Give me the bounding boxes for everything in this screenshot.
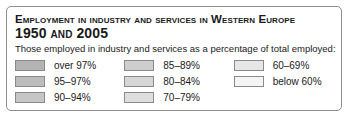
legend-swatch-label: 70–79%	[163, 92, 200, 103]
legend-swatch-label: 80–84%	[163, 76, 200, 87]
legend-item: 90–94%	[15, 90, 124, 106]
legend-item: over 97%	[15, 58, 124, 74]
legend-item: 70–79%	[124, 90, 233, 106]
title-block: Employment in industry and services in W…	[15, 13, 333, 41]
legend-item: below 60%	[234, 74, 333, 90]
legend-swatch	[234, 76, 264, 87]
legend-column-3: 60–69% below 60%	[234, 58, 333, 106]
legend-swatch	[15, 92, 45, 103]
legend-swatch-label: 95–97%	[54, 76, 91, 87]
legend-item: 85–89%	[124, 58, 233, 74]
legend-item: 95–97%	[15, 74, 124, 90]
legend-columns: over 97% 95–97% 90–94% 85–89%	[15, 58, 333, 106]
page-title-line-1: Employment in industry and services in W…	[15, 13, 333, 26]
legend-swatch-label: 90–94%	[54, 92, 91, 103]
legend-swatch-label: below 60%	[273, 76, 322, 87]
page-title-line-2: 1950 and 2005	[15, 26, 333, 41]
legend-item: 60–69%	[234, 58, 333, 74]
legend-column-1: over 97% 95–97% 90–94%	[15, 58, 124, 106]
legend-swatch	[124, 60, 154, 71]
legend-swatch-label: 60–69%	[273, 60, 310, 71]
subtitle-text: Those employed in industry and services …	[15, 43, 333, 54]
legend-swatch	[15, 60, 45, 71]
legend-swatch	[124, 92, 154, 103]
legend-swatch	[234, 60, 264, 71]
legend-column-2: 85–89% 80–84% 70–79%	[124, 58, 233, 106]
legend-panel: Employment in industry and services in W…	[6, 6, 342, 111]
legend-swatch-label: 85–89%	[163, 60, 200, 71]
legend-swatch	[15, 76, 45, 87]
panel-inner: Employment in industry and services in W…	[7, 7, 341, 106]
legend-swatch	[124, 76, 154, 87]
legend-item: 80–84%	[124, 74, 233, 90]
legend-swatch-label: over 97%	[54, 60, 96, 71]
